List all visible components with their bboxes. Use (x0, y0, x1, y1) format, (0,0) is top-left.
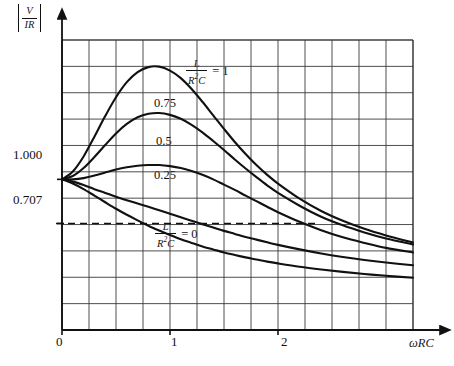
plot-area-svg (0, 0, 454, 366)
data-curve-0 (62, 179, 413, 277)
axes (57, 18, 441, 335)
grid-lines (62, 40, 413, 330)
figure-chart-container: V IR 1.000 0.707 0 1 2 ωRC L R2C = 1 0.7… (0, 0, 454, 366)
